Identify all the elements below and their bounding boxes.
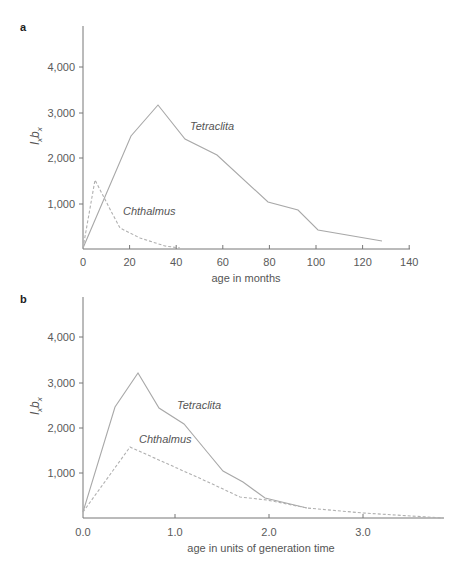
chthalmus-label-a: Chthalmus [123,205,176,217]
chthalmus-line-b [83,447,443,518]
y-axis-title-b: lxbx [28,396,44,414]
x-tick-label: 0.0 [75,526,90,538]
panel-a: a 1,000 2,000 3,000 4,000 0 20 40 [20,21,418,284]
x-axis-title-a: age in months [211,272,281,284]
tetraclita-label-b: Tetraclita [177,399,221,411]
tetraclita-line-b [83,373,307,512]
y-tick-label: 4,000 [47,331,75,343]
x-tick-label: 100 [307,256,325,268]
y-ticks-a: 1,000 2,000 3,000 4,000 [47,61,83,210]
x-tick-label: 140 [400,256,418,268]
y-tick-label: 4,000 [47,61,75,73]
x-tick-label: 40 [170,256,182,268]
y-tick-label: 3,000 [47,107,75,119]
x-tick-label: 20 [123,256,135,268]
x-tick-label: 120 [353,256,371,268]
y-tick-label: 1,000 [47,198,75,210]
x-ticks-a: 0 20 40 60 80 100 120 140 [80,245,418,268]
y-ticks-b: 1,000 2,000 3,000 4,000 [47,331,83,479]
figure: a 1,000 2,000 3,000 4,000 0 20 40 [0,0,456,571]
x-tick-label: 60 [217,256,229,268]
panel-b: b 1,000 2,000 3,000 4,000 0.0 1.0 2.0 3.… [20,293,444,554]
x-tick-label: 2.0 [261,526,276,538]
x-axis-title-b: age in units of generation time [187,542,334,554]
panel-label-b: b [20,293,27,305]
tetraclita-label-a: Tetraclita [190,120,234,132]
x-tick-label: 1.0 [167,526,182,538]
x-tick-label: 0 [80,256,86,268]
chthalmus-label-b: Chthalmus [139,433,192,445]
y-tick-label: 2,000 [47,422,75,434]
y-tick-label: 2,000 [47,152,75,164]
y-tick-label: 1,000 [47,467,75,479]
x-tick-label: 80 [263,256,275,268]
x-tick-label: 3.0 [355,526,370,538]
y-axis-title-a: lxbx [28,126,44,144]
y-tick-label: 3,000 [47,377,75,389]
panel-label-a: a [20,21,27,33]
